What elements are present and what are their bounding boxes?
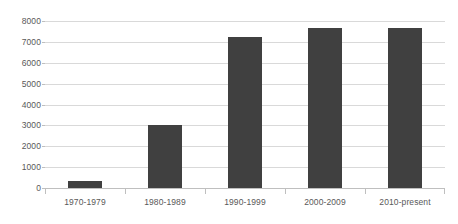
y-tick-label: 6000 — [0, 59, 41, 68]
x-tick-label: 1990-1999 — [205, 198, 285, 207]
bar — [68, 181, 102, 188]
x-tick-mark — [205, 188, 206, 194]
x-tick-label: 1970-1979 — [45, 198, 125, 207]
x-tick-label: 2000-2009 — [285, 198, 365, 207]
y-tick-label: 0 — [0, 184, 41, 193]
x-tick-label: 2010-present — [365, 198, 445, 207]
x-tick-mark — [45, 188, 46, 194]
bar — [388, 28, 422, 188]
y-tick-label: 7000 — [0, 38, 41, 47]
x-tick-mark — [285, 188, 286, 194]
y-tick-label: 4000 — [0, 101, 41, 110]
y-tick-label: 3000 — [0, 121, 41, 130]
x-axis-ticks — [45, 188, 445, 194]
bar-chart: 010002000300040005000600070008000 1970-1… — [0, 0, 458, 224]
y-tick-label: 5000 — [0, 80, 41, 89]
x-tick-mark — [125, 188, 126, 194]
bar — [148, 125, 182, 188]
x-tick-mark — [444, 188, 445, 194]
bar — [228, 37, 262, 188]
gridline — [45, 21, 445, 22]
x-tick-label: 1980-1989 — [125, 198, 205, 207]
plot-area — [45, 21, 445, 188]
y-tick-label: 2000 — [0, 142, 41, 151]
bar — [308, 28, 342, 188]
x-axis: 1970-19791980-19891990-19992000-20092010… — [45, 198, 445, 214]
y-tick-label: 1000 — [0, 163, 41, 172]
y-tick-label: 8000 — [0, 17, 41, 26]
y-axis: 010002000300040005000600070008000 — [0, 0, 41, 224]
x-tick-mark — [365, 188, 366, 194]
